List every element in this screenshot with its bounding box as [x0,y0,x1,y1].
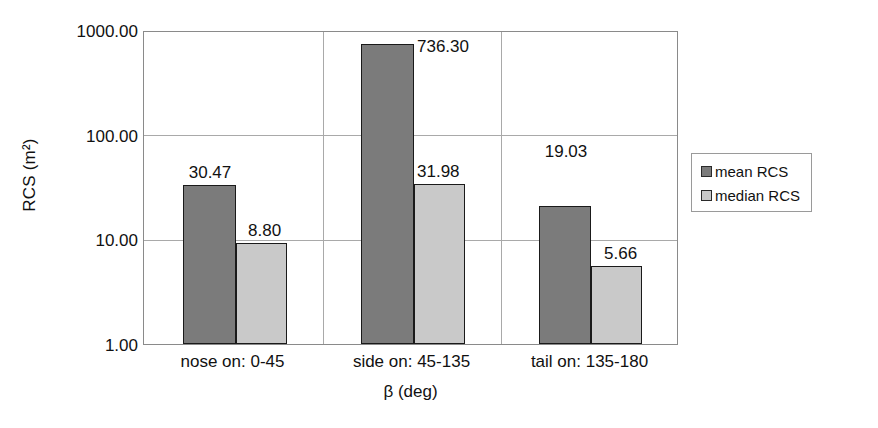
plot-area: 30.47 8.80 736.30 31.98 19.03 5.66 [143,31,678,345]
y-tick-label-10: 10.00 [46,232,138,249]
bar-value-label-mean-nose-on: 30.47 [184,164,236,181]
legend: mean RCS median RCS [691,153,812,212]
category-separator-2 [501,32,502,344]
legend-item-median-rcs: median RCS [701,187,800,204]
x-axis-title: β (deg) [143,382,678,402]
bar-median-nose-on [236,243,287,344]
bar-mean-side-on [361,44,414,344]
bar-value-label-median-nose-on: 8.80 [248,222,281,239]
x-category-label-tail-on: tail on: 135-180 [500,352,679,372]
bar-value-label-median-tail-on: 5.66 [604,245,637,262]
legend-item-mean-rcs: mean RCS [701,163,788,180]
bar-mean-tail-on [539,206,591,344]
x-category-label-nose-on: nose on: 0-45 [143,352,322,372]
legend-label-median-rcs: median RCS [715,187,800,204]
y-tick-label-1: 1.00 [46,337,138,354]
bar-value-label-mean-tail-on: 19.03 [540,143,592,160]
legend-swatch-mean-icon [701,166,712,177]
y-axis-tick-labels: 1000.00 100.00 10.00 1.00 [44,0,138,428]
y-tick-label-1000: 1000.00 [46,23,138,40]
bar-median-side-on [414,184,465,344]
bar-value-label-mean-side-on: 736.30 [417,38,469,55]
bar-value-label-median-side-on: 31.98 [417,163,460,180]
y-tick-label-100: 100.00 [46,128,138,145]
rcs-bar-chart: RCS (m²) 1000.00 100.00 10.00 1.00 30.47… [0,0,878,428]
legend-swatch-median-icon [701,190,712,201]
x-category-label-side-on: side on: 45-135 [322,352,501,372]
bar-median-tail-on [591,266,642,344]
legend-label-mean-rcs: mean RCS [715,163,788,180]
category-separator-1 [323,32,324,344]
y-axis-title: RCS (m²) [20,105,40,245]
bar-mean-nose-on [183,185,236,344]
